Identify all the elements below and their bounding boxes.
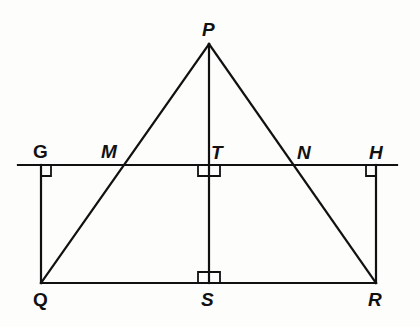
- label-q: Q: [33, 289, 48, 310]
- label-g: G: [33, 141, 48, 162]
- right-angle-mark-g: [41, 165, 51, 176]
- label-n: N: [297, 142, 312, 163]
- side-pr: [209, 44, 376, 283]
- label-r: R: [368, 289, 382, 310]
- label-s: S: [201, 289, 214, 310]
- right-angle-mark-h: [366, 165, 376, 176]
- side-pq: [41, 44, 209, 283]
- label-p: P: [202, 19, 215, 40]
- label-h: H: [369, 142, 384, 163]
- diagram-svg: P G M T N H Q S R: [0, 0, 420, 327]
- geometry-diagram: P G M T N H Q S R: [0, 0, 420, 327]
- label-t: T: [211, 142, 224, 163]
- label-m: M: [101, 141, 118, 162]
